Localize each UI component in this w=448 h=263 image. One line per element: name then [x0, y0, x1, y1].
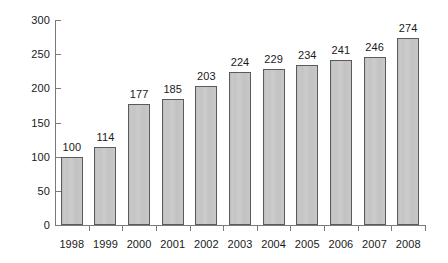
bar-value-label: 203: [186, 71, 226, 82]
bar: [263, 69, 285, 225]
y-axis-tick: [56, 20, 61, 21]
x-axis-tick: [257, 226, 258, 231]
x-axis-label: 2008: [388, 238, 428, 250]
x-axis-tick: [190, 226, 191, 231]
x-axis-tick: [391, 226, 392, 231]
bar-chart: 050100150200250300 100114177185203224229…: [0, 0, 448, 263]
bar: [296, 65, 318, 225]
bar: [195, 86, 217, 225]
bar-value-label: 100: [52, 142, 92, 153]
bar-value-label: 114: [85, 132, 125, 143]
y-axis-tick-label: 50: [10, 186, 50, 197]
bar: [94, 147, 116, 225]
y-axis-tick-label: 200: [10, 83, 50, 94]
bar: [364, 57, 386, 225]
y-axis-tick-label-wrap: 50: [5, 186, 50, 197]
y-axis-tick-label-wrap: 300: [5, 15, 50, 26]
x-axis-tick: [358, 226, 359, 231]
x-axis-line: [55, 225, 426, 226]
x-axis-tick: [156, 226, 157, 231]
y-axis-tick: [56, 225, 61, 226]
bar-value-label: 185: [153, 84, 193, 95]
x-axis-tick: [122, 226, 123, 231]
bar-value-label: 246: [355, 42, 395, 53]
y-axis-tick: [56, 54, 61, 55]
y-axis-tick-label: 250: [10, 49, 50, 60]
y-axis-tick-label: 0: [10, 220, 50, 231]
y-axis-tick-label-wrap: 250: [5, 49, 50, 60]
y-axis-tick-label-wrap: 150: [5, 118, 50, 129]
bar: [128, 104, 150, 225]
x-axis-tick: [89, 226, 90, 231]
bar: [330, 60, 352, 225]
bar: [61, 157, 83, 225]
y-axis-tick: [56, 123, 61, 124]
x-axis-tick: [425, 226, 426, 231]
x-axis-tick: [324, 226, 325, 231]
x-axis-tick: [290, 226, 291, 231]
y-axis-tick-label: 150: [10, 118, 50, 129]
bar: [397, 38, 419, 225]
x-axis-tick: [223, 226, 224, 231]
y-axis-tick-label-wrap: 200: [5, 83, 50, 94]
y-axis-tick: [56, 88, 61, 89]
bar-value-label: 274: [388, 23, 428, 34]
bar: [162, 99, 184, 225]
y-axis-tick-label-wrap: 100: [5, 152, 50, 163]
y-axis-tick-label: 300: [10, 15, 50, 26]
bar: [229, 72, 251, 225]
y-axis-tick-label-wrap: 0: [5, 220, 50, 231]
y-axis-tick-label: 100: [10, 152, 50, 163]
